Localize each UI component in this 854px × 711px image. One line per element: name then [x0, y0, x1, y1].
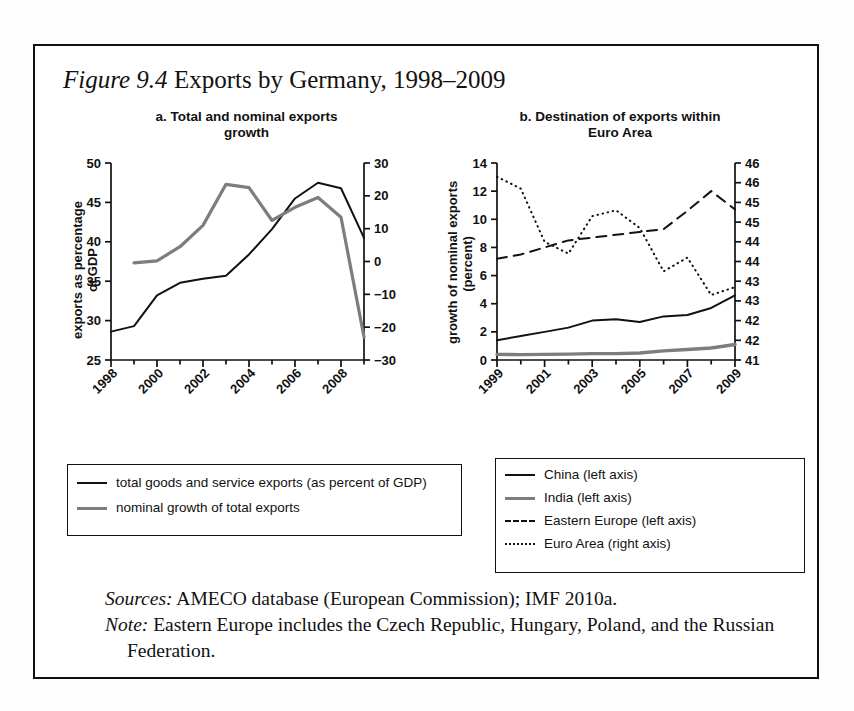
left-axis-tick-label: 2 — [480, 324, 487, 339]
left-axis-tick-label: 8 — [480, 240, 487, 255]
panel-b-title: b. Destination of exports within Euro Ar… — [435, 109, 805, 141]
x-axis-tick-label: 2008 — [319, 366, 350, 397]
series-line — [497, 295, 735, 340]
chart-panel-a: a. Total and nominal exports growth expo… — [59, 109, 434, 439]
legend-b-label: Eastern Europe (left axis) — [544, 513, 696, 528]
x-axis-tick-label: 2005 — [618, 366, 649, 397]
right-axis-tick-label: 43 — [745, 293, 759, 308]
note-line: Note: Eastern Europe includes the Czech … — [105, 612, 775, 664]
legend-b-label: India (left axis) — [544, 490, 632, 505]
left-axis-tick-label: 35 — [87, 274, 101, 289]
x-axis-tick-label: 1999 — [475, 366, 506, 397]
right-axis-tick-label: 46 — [745, 156, 759, 171]
right-axis-tick-label: 0 — [374, 254, 381, 269]
legend-line-dashed-icon — [505, 515, 535, 527]
x-axis-tick-label: 2001 — [523, 366, 554, 397]
left-axis-tick-label: 30 — [87, 313, 101, 328]
right-axis-tick-label: 44 — [745, 254, 760, 269]
left-axis-tick-label: 10 — [473, 212, 487, 227]
right-axis-tick-label: −30 — [374, 353, 396, 368]
legend-b-item[interactable]: China (left axis) — [505, 466, 804, 483]
left-axis-tick-label: 14 — [473, 156, 488, 171]
left-axis-tick-label: 0 — [480, 353, 487, 368]
legend-a-item[interactable]: nominal growth of total exports — [77, 499, 461, 516]
legend-a-item[interactable]: total goods and service exports (as perc… — [77, 474, 461, 491]
right-axis-tick-label: 46 — [745, 175, 759, 190]
chart-panel-b: b. Destination of exports within Euro Ar… — [435, 109, 805, 439]
right-axis-tick-label: 42 — [745, 333, 759, 348]
panel-a-legend: total goods and service exports (as perc… — [67, 464, 462, 536]
legend-b-item[interactable]: Euro Area (right axis) — [505, 535, 804, 552]
sources-lead: Sources: — [105, 588, 173, 609]
sources-line: Sources: AMECO database (European Commis… — [105, 586, 775, 612]
panel-a-title-line2: growth — [59, 125, 434, 141]
figure-caption: Figure 9.4 Exports by Germany, 1998–2009 — [63, 66, 763, 94]
right-axis-tick-label: 45 — [745, 215, 759, 230]
panel-b-svg: 0246810121441424243434444454546461999200… — [435, 155, 805, 401]
legend-line-solid-gray-icon — [77, 502, 107, 514]
figure-caption-text: Exports by Germany, 1998–2009 — [168, 66, 506, 93]
series-line — [497, 177, 735, 295]
note-lead: Note: — [105, 614, 148, 635]
panel-a-legend-list: total goods and service exports (as perc… — [68, 465, 461, 516]
series-line — [134, 184, 364, 337]
legend-line-solid-gray-icon — [505, 492, 535, 504]
left-axis-tick-label: 4 — [480, 296, 488, 311]
left-axis-tick-label: 45 — [87, 195, 101, 210]
legend-line-dotted-icon — [505, 538, 535, 550]
panel-b-legend-list: China (left axis)India (left axis)Easter… — [496, 459, 804, 552]
left-axis-tick-label: 40 — [87, 234, 101, 249]
x-axis-tick-label: 2009 — [713, 366, 744, 397]
panel-a-title: a. Total and nominal exports growth — [59, 109, 434, 141]
sources-text: AMECO database (European Commission); IM… — [173, 588, 618, 609]
right-axis-tick-label: 10 — [374, 221, 388, 236]
x-axis-tick-label: 2003 — [570, 366, 601, 397]
legend-line-solid-black-icon — [505, 469, 535, 481]
panel-b-plot: 0246810121441424243434444454546461999200… — [435, 155, 805, 401]
legend-line-solid-black-icon — [77, 477, 107, 489]
right-axis-tick-label: 43 — [745, 274, 759, 289]
x-axis-tick-label: 2006 — [273, 366, 304, 397]
left-axis-tick-label: 50 — [87, 156, 101, 171]
right-axis-tick-label: 45 — [745, 195, 759, 210]
note-text: Eastern Europe includes the Czech Republ… — [127, 614, 774, 661]
figure-notes: Sources: AMECO database (European Commis… — [105, 586, 775, 664]
legend-b-label: China (left axis) — [544, 467, 638, 482]
legend-b-label: Euro Area (right axis) — [544, 536, 671, 551]
legend-a-label: total goods and service exports (as perc… — [116, 475, 427, 490]
series-line — [497, 191, 735, 259]
figure-number: Figure 9.4 — [63, 66, 168, 93]
right-axis-tick-label: 30 — [374, 156, 388, 171]
panel-a-svg: 253035404550−30−20−100102030199820002002… — [59, 155, 434, 401]
series-line — [497, 345, 735, 355]
panel-b-legend: China (left axis)India (left axis)Easter… — [495, 458, 805, 573]
x-axis-tick-label: 1998 — [89, 366, 120, 397]
x-axis-tick-label: 2002 — [181, 366, 212, 397]
left-axis-tick-label: 6 — [480, 268, 487, 283]
x-axis-tick-label: 2007 — [665, 366, 696, 397]
left-axis-tick-label: 12 — [473, 184, 487, 199]
panel-b-title-line2: Euro Area — [435, 125, 805, 141]
right-axis-tick-label: 20 — [374, 188, 388, 203]
right-axis-tick-label: 44 — [745, 234, 760, 249]
right-axis-tick-label: −20 — [374, 320, 396, 335]
legend-a-label: nominal growth of total exports — [116, 500, 300, 515]
panel-a-plot: 253035404550−30−20−100102030199820002002… — [59, 155, 434, 401]
legend-b-item[interactable]: Eastern Europe (left axis) — [505, 512, 804, 529]
panel-a-title-line1: a. Total and nominal exports — [59, 109, 434, 125]
x-axis-tick-label: 2000 — [135, 366, 166, 397]
right-axis-tick-label: 42 — [745, 313, 759, 328]
left-axis-tick-label: 25 — [87, 353, 101, 368]
right-axis-tick-label: −10 — [374, 287, 396, 302]
panel-b-title-line1: b. Destination of exports within — [435, 109, 805, 125]
figure-page: Figure 9.4 Exports by Germany, 1998–2009… — [0, 0, 854, 711]
x-axis-tick-label: 2004 — [227, 365, 259, 397]
legend-b-item[interactable]: India (left axis) — [505, 489, 804, 506]
right-axis-tick-label: 41 — [745, 353, 759, 368]
figure-frame: Figure 9.4 Exports by Germany, 1998–2009… — [33, 44, 819, 679]
